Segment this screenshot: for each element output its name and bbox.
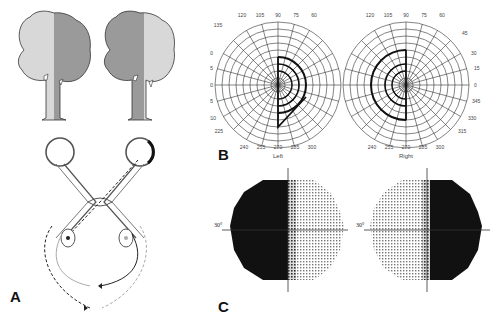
svg-text:240: 240 (240, 144, 249, 150)
svg-text:180: 180 (210, 82, 213, 88)
optic-chiasm-diagram (0, 130, 180, 318)
svg-text:Left: Left (273, 153, 283, 159)
svg-text:330: 330 (468, 115, 477, 121)
svg-text:90: 90 (403, 12, 409, 18)
svg-text:15: 15 (474, 65, 480, 71)
panel-c-automated-perimetry: 30° 30° C (210, 160, 492, 318)
panel-label-a: A (10, 288, 21, 305)
perimetry-charts: 120 105 90 75 60 135 150 165 180 195 210… (210, 0, 492, 162)
svg-text:255: 255 (257, 144, 266, 150)
svg-text:345: 345 (472, 98, 481, 104)
svg-text:60: 60 (311, 12, 317, 18)
svg-text:90: 90 (275, 12, 281, 18)
svg-text:105: 105 (384, 12, 393, 18)
panel-label-c: C (218, 298, 229, 315)
right-eye-grayscale: 30° (356, 168, 490, 292)
svg-text:195: 195 (210, 98, 213, 104)
svg-text:105: 105 (256, 12, 265, 18)
svg-text:285: 285 (291, 144, 300, 150)
svg-text:75: 75 (421, 12, 427, 18)
right-eye-field: 120 105 90 75 60 45 30 15 0 345 330 315 … (343, 12, 481, 159)
svg-text:30: 30 (471, 50, 477, 56)
svg-text:Right: Right (399, 153, 413, 159)
svg-text:315: 315 (458, 128, 467, 134)
svg-text:300: 300 (436, 144, 445, 150)
svg-text:75: 75 (293, 12, 299, 18)
svg-text:255: 255 (385, 144, 394, 150)
panel-a-trees (0, 0, 180, 130)
svg-text:30°: 30° (356, 222, 365, 228)
svg-text:45: 45 (462, 30, 468, 36)
svg-text:135: 135 (214, 22, 223, 28)
svg-text:150: 150 (210, 50, 213, 56)
svg-text:60: 60 (439, 12, 445, 18)
svg-text:120: 120 (366, 12, 375, 18)
svg-text:225: 225 (215, 128, 224, 134)
svg-text:270: 270 (274, 144, 283, 150)
svg-text:120: 120 (238, 12, 247, 18)
panel-a-optic-pathway: A (0, 130, 180, 318)
grayscale-fields: 30° 30° (210, 160, 492, 318)
svg-text:240: 240 (368, 144, 377, 150)
left-eye-field: 120 105 90 75 60 135 150 165 180 195 210… (210, 12, 341, 159)
svg-text:210: 210 (210, 115, 216, 121)
svg-text:0: 0 (474, 82, 477, 88)
left-eye-grayscale: 30° (214, 168, 348, 292)
svg-text:285: 285 (419, 144, 428, 150)
svg-text:165: 165 (210, 65, 213, 71)
svg-text:300: 300 (308, 144, 317, 150)
panel-b-goldmann-perimetry: 120 105 90 75 60 135 150 165 180 195 210… (210, 0, 492, 162)
svg-text:270: 270 (402, 144, 411, 150)
trees-illustration (0, 0, 180, 130)
svg-text:30°: 30° (214, 222, 223, 228)
